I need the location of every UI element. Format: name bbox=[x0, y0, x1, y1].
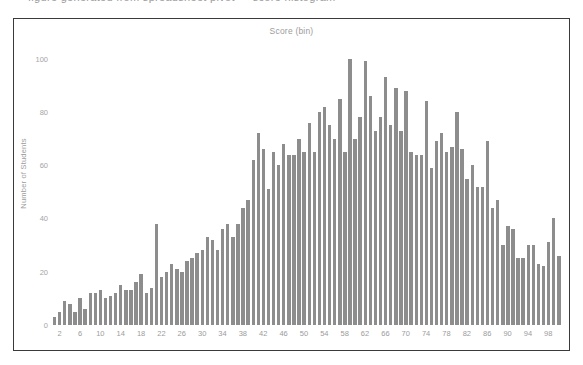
bar bbox=[430, 168, 433, 325]
bar bbox=[318, 112, 321, 325]
bar bbox=[190, 258, 193, 325]
bar bbox=[384, 77, 387, 325]
bar bbox=[460, 149, 463, 325]
x-axis-tick-label: 50 bbox=[300, 329, 308, 338]
x-axis-tick-label: 54 bbox=[320, 329, 328, 338]
bar bbox=[445, 152, 448, 325]
bar bbox=[277, 165, 280, 325]
x-axis-tick-label: 34 bbox=[218, 329, 226, 338]
bar bbox=[257, 133, 260, 325]
bar bbox=[348, 59, 351, 325]
bar bbox=[89, 293, 92, 325]
bar bbox=[185, 261, 188, 325]
bar bbox=[236, 224, 239, 325]
bar bbox=[114, 293, 117, 325]
bar bbox=[216, 250, 219, 325]
bar bbox=[165, 272, 168, 325]
bar bbox=[155, 224, 158, 325]
bar bbox=[465, 179, 468, 326]
bar bbox=[511, 229, 514, 325]
bar bbox=[175, 269, 178, 325]
bar bbox=[552, 218, 555, 325]
x-axis-tick-label: 42 bbox=[259, 329, 267, 338]
y-axis-tick-labels: 020406080100 bbox=[14, 32, 48, 325]
bar bbox=[455, 112, 458, 325]
y-axis-tick-label: 20 bbox=[22, 267, 48, 276]
bar bbox=[267, 189, 270, 325]
bar bbox=[338, 99, 341, 325]
bar bbox=[109, 296, 112, 325]
bar-series bbox=[52, 32, 561, 325]
bar bbox=[252, 160, 255, 325]
x-axis-tick-label: 6 bbox=[78, 329, 82, 338]
bar bbox=[409, 152, 412, 325]
bar bbox=[328, 125, 331, 325]
bar bbox=[104, 298, 107, 325]
bar bbox=[119, 285, 122, 325]
bar bbox=[302, 152, 305, 325]
x-axis-tick-label: 14 bbox=[117, 329, 125, 338]
bar bbox=[211, 240, 214, 325]
bar bbox=[262, 149, 265, 325]
bar bbox=[374, 131, 377, 325]
x-axis-tick-label: 82 bbox=[463, 329, 471, 338]
bar bbox=[124, 290, 127, 325]
x-axis-tick-label: 78 bbox=[442, 329, 450, 338]
bar bbox=[557, 256, 560, 325]
bar bbox=[435, 141, 438, 325]
x-axis-tick-label: 10 bbox=[96, 329, 104, 338]
bar bbox=[516, 258, 519, 325]
bar bbox=[195, 253, 198, 325]
x-axis-tick-label: 62 bbox=[361, 329, 369, 338]
bar bbox=[292, 155, 295, 325]
x-axis-tick-label: 86 bbox=[483, 329, 491, 338]
cropped-caption-text: figure generated from spreadsheet pivot … bbox=[28, 0, 336, 3]
bar bbox=[415, 155, 418, 325]
bar bbox=[404, 91, 407, 325]
bar bbox=[68, 304, 71, 325]
y-axis-tick-label: 80 bbox=[22, 107, 48, 116]
bar bbox=[150, 288, 153, 325]
bar bbox=[323, 107, 326, 325]
bar bbox=[506, 226, 509, 325]
bar bbox=[394, 88, 397, 325]
x-axis-tick-label: 98 bbox=[544, 329, 552, 338]
x-axis-tick-label: 2 bbox=[58, 329, 62, 338]
bar bbox=[201, 250, 204, 325]
bar bbox=[94, 293, 97, 325]
bar bbox=[542, 266, 545, 325]
x-axis-tick-label: 38 bbox=[239, 329, 247, 338]
bar bbox=[481, 187, 484, 326]
bar bbox=[73, 312, 76, 325]
bar bbox=[145, 293, 148, 325]
bar bbox=[206, 237, 209, 325]
x-axis-tick-label: 46 bbox=[279, 329, 287, 338]
y-axis-tick-label: 0 bbox=[22, 321, 48, 330]
bar bbox=[440, 133, 443, 325]
bar bbox=[491, 208, 494, 325]
x-axis-tick-label: 66 bbox=[381, 329, 389, 338]
bar bbox=[221, 229, 224, 325]
bar bbox=[343, 152, 346, 325]
bar bbox=[471, 165, 474, 325]
x-axis-tick-label: 74 bbox=[422, 329, 430, 338]
bar bbox=[180, 272, 183, 325]
bar bbox=[282, 144, 285, 325]
bar bbox=[83, 309, 86, 325]
bar bbox=[272, 152, 275, 325]
bar bbox=[369, 96, 372, 325]
bar bbox=[231, 237, 234, 325]
bar bbox=[139, 274, 142, 325]
x-axis-tick-label: 58 bbox=[341, 329, 349, 338]
bar bbox=[313, 152, 316, 325]
bar bbox=[170, 264, 173, 325]
x-axis-tick-label: 90 bbox=[503, 329, 511, 338]
bar bbox=[450, 147, 453, 325]
bar bbox=[527, 245, 530, 325]
chart-frame: Score (bin) Number of Students 020406080… bbox=[13, 18, 570, 351]
bar bbox=[53, 317, 56, 325]
bar bbox=[160, 277, 163, 325]
bar bbox=[399, 131, 402, 325]
y-axis-tick-label: 60 bbox=[22, 161, 48, 170]
x-axis-tick-label: 22 bbox=[157, 329, 165, 338]
